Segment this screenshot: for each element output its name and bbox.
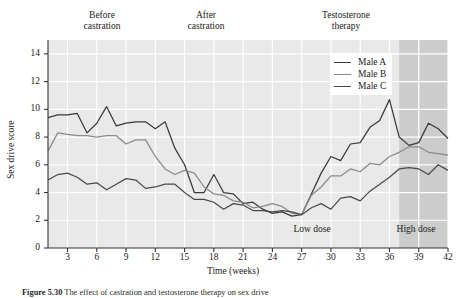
legend-label: Male A (358, 57, 386, 67)
phase-label-after-castration: After castration (162, 10, 250, 32)
figure-number: Figure 5.30 (22, 288, 62, 297)
x-tick-label: 42 (437, 252, 459, 262)
phase-after-line1: After (162, 10, 250, 21)
x-tick-label: 24 (261, 252, 283, 262)
legend-item-male-a[interactable]: Male A (334, 56, 386, 68)
phase-before-line2: castration (58, 21, 146, 32)
figure-caption: Figure 5.30 The effect of castration and… (22, 288, 452, 298)
y-tick-label: 0 (18, 242, 40, 252)
legend-label: Male B (358, 69, 386, 79)
y-tick-label: 6 (18, 159, 40, 169)
x-tick-label: 6 (86, 252, 108, 262)
annotation-high-dose: High dose (382, 224, 450, 234)
annotation-low-dose: Low dose (278, 224, 346, 234)
x-axis-label: Time (weeks) (0, 266, 466, 276)
chart-legend: Male AMale BMale C (330, 53, 392, 95)
figure-container: Before castration After castration Testo… (0, 0, 466, 298)
legend-item-male-c[interactable]: Male C (334, 80, 386, 92)
x-tick-label: 30 (320, 252, 342, 262)
x-tick-label: 18 (203, 252, 225, 262)
legend-label: Male C (358, 81, 386, 91)
legend-swatch-icon (334, 62, 351, 63)
y-tick-label: 4 (18, 187, 40, 197)
x-tick-label: 27 (291, 252, 313, 262)
phase-before-line1: Before (58, 10, 146, 21)
x-tick-label: 15 (174, 252, 196, 262)
phase-testo-line2: therapy (296, 21, 396, 32)
phase-label-before-castration: Before castration (58, 10, 146, 32)
x-tick-label: 9 (115, 252, 137, 262)
y-tick-label: 2 (18, 214, 40, 224)
phase-testo-line1: Testosterone (296, 10, 396, 21)
y-tick-label: 10 (18, 103, 40, 113)
x-tick-label: 21 (232, 252, 254, 262)
phase-after-line2: castration (162, 21, 250, 32)
y-axis-label: Sex drive score (4, 104, 18, 196)
legend-item-male-b[interactable]: Male B (334, 68, 386, 80)
x-tick-label: 39 (408, 252, 430, 262)
x-tick-label: 3 (57, 252, 79, 262)
y-tick-label: 8 (18, 131, 40, 141)
x-tick-label: 33 (349, 252, 371, 262)
legend-swatch-icon (334, 86, 351, 87)
y-tick-label: 12 (18, 76, 40, 86)
phase-label-testosterone-therapy: Testosterone therapy (296, 10, 396, 32)
y-tick-label: 14 (18, 48, 40, 58)
legend-swatch-icon (334, 74, 351, 75)
caption-text: The effect of castration and testosteron… (64, 288, 268, 297)
x-tick-label: 12 (144, 252, 166, 262)
x-tick-label: 36 (378, 252, 400, 262)
